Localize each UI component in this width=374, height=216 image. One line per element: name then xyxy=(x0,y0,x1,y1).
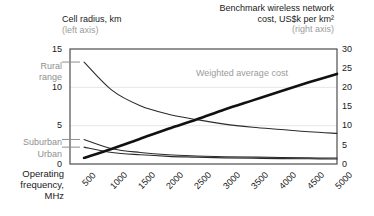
grid-lines xyxy=(70,87,337,125)
plot-frame xyxy=(70,49,337,164)
chart-plot xyxy=(0,0,374,216)
left-axis-marker-ticks xyxy=(62,62,80,147)
series-lines xyxy=(84,62,337,159)
chart-container: Cell radius, km (left axis) Benchmark wi… xyxy=(0,0,374,216)
